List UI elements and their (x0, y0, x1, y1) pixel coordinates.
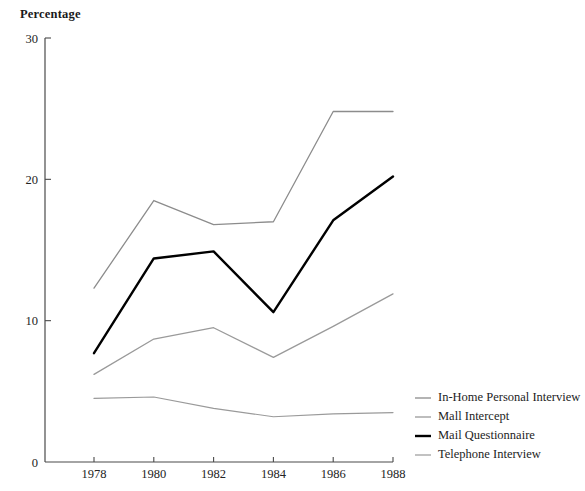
legend-line-swatch-2 (415, 431, 431, 441)
x-axis-tick-label: 1988 (381, 467, 406, 481)
legend-line-swatch-0 (415, 393, 431, 403)
y-axis-tick-label: 0 (32, 456, 38, 470)
x-axis-tick-label: 1984 (261, 467, 287, 481)
legend-label-mall-intercept: Mall Intercept (438, 410, 509, 423)
y-axis-tick-label: 30 (26, 32, 39, 46)
x-axis-tick-label: 1982 (201, 467, 226, 481)
x-axis-tick-label: 1986 (321, 467, 346, 481)
series-line-telephone-interview (94, 397, 393, 417)
y-axis-tick-label: 10 (26, 314, 39, 328)
legend-line-swatch-1 (415, 412, 431, 422)
legend-item: Mall Intercept (415, 407, 585, 426)
legend-label-mail-questionnaire: Mail Questionnaire (438, 429, 535, 442)
x-axis-tick-label: 1980 (141, 467, 166, 481)
chart-page: Percentage 01020301978198019821984198619… (0, 0, 585, 491)
series-line-mall-intercept (94, 294, 393, 375)
legend-item: Telephone Interview (415, 445, 585, 464)
series-line-in-home-personal-interview (94, 111, 393, 288)
legend-label-telephone-interview: Telephone Interview (438, 448, 541, 461)
legend-item: Mail Questionnaire (415, 426, 585, 445)
legend-label-in-home-personal-interview: In-Home Personal Interview (438, 391, 580, 404)
legend-line-swatch-3 (415, 450, 431, 460)
series-line-mail-questionnaire (94, 177, 393, 354)
x-axis-tick-label: 1978 (82, 467, 107, 481)
y-axis-tick-label: 20 (26, 173, 39, 187)
chart-legend: In-Home Personal Interview Mall Intercep… (415, 388, 585, 464)
legend-item: In-Home Personal Interview (415, 388, 585, 407)
